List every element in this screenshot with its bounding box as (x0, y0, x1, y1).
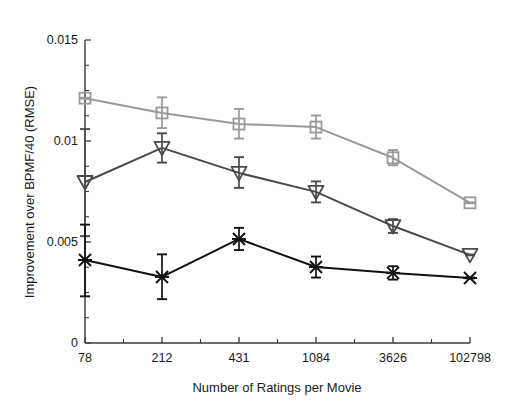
x-tick-label: 1084 (302, 351, 330, 365)
y-axis-title: Improvement over BPMF/40 (RMSE) (22, 86, 37, 298)
x-tick-label: 212 (152, 351, 173, 365)
x-axis-title: Number of Ratings per Movie (192, 380, 361, 395)
y-tick-label: 0.01 (54, 134, 78, 148)
y-tick-label: 0 (71, 336, 78, 350)
x-tick-label: 78 (78, 351, 92, 365)
error-bar (80, 98, 90, 99)
x-tick-label: 3626 (379, 351, 407, 365)
chart-background (0, 0, 522, 408)
chart-svg: 00.0050.010.015 7821243110843626102798 N… (0, 0, 522, 408)
chart-figure-root: 00.0050.010.015 7821243110843626102798 N… (0, 0, 522, 408)
y-tick-label: 0.015 (47, 33, 78, 47)
error-bar (465, 202, 475, 203)
x-tick-label: 102798 (449, 351, 491, 365)
y-tick-label: 0.005 (47, 235, 78, 249)
x-tick-label: 431 (229, 351, 250, 365)
